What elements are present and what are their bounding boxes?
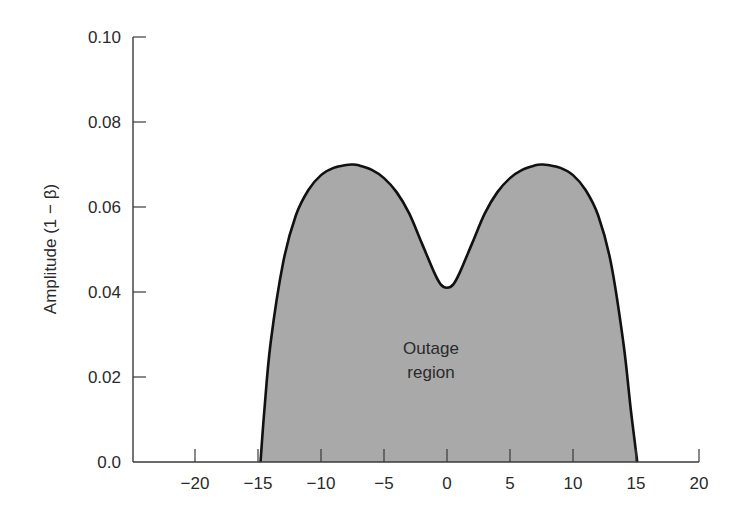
outage-region-label-line1: Outage <box>403 339 459 358</box>
outage-region-area <box>261 164 638 462</box>
x-tick-label: −5 <box>374 474 393 493</box>
x-tick-label: 0 <box>442 474 451 493</box>
x-tick-label: 20 <box>690 474 709 493</box>
plot-area <box>261 164 638 462</box>
x-tick-label: −20 <box>181 474 210 493</box>
y-tick-label: 0.02 <box>88 368 121 387</box>
x-tick-label: 15 <box>627 474 646 493</box>
x-tick-label: −15 <box>244 474 273 493</box>
y-ticks: 0.00.020.040.060.080.10 <box>88 28 146 472</box>
y-tick-label: 0.04 <box>88 283 121 302</box>
y-tick-label: 0.08 <box>88 113 121 132</box>
x-tick-label: −10 <box>307 474 336 493</box>
y-tick-label: 0.06 <box>88 198 121 217</box>
y-tick-label: 0.0 <box>97 453 121 472</box>
x-tick-label: 10 <box>564 474 583 493</box>
y-axis-label: Amplitude (1 − β) <box>41 184 60 314</box>
y-tick-label: 0.10 <box>88 28 121 47</box>
outage-region-chart: 0.00.020.040.060.080.10 −20−15−10−505101… <box>0 0 751 521</box>
outage-region-label-line2: region <box>407 363 454 382</box>
x-tick-label: 5 <box>505 474 514 493</box>
